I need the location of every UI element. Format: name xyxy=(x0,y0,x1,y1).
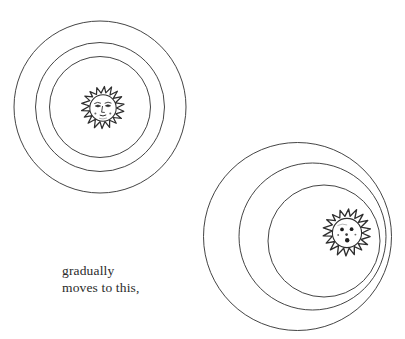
caption-line-1: gradually xyxy=(62,263,139,280)
sun-face-disc xyxy=(90,95,116,121)
sun-nose xyxy=(345,233,348,236)
sun-right-eye xyxy=(105,105,110,107)
sun-right-cheek xyxy=(354,234,356,236)
sun-left-cheek xyxy=(337,234,339,236)
caption: gradually moves to this, xyxy=(62,263,139,296)
caption-line-2: moves to this, xyxy=(62,280,139,297)
sun-right-eye xyxy=(350,227,354,231)
sun-right-cheek xyxy=(109,112,111,114)
sun-left-cheek xyxy=(94,113,96,115)
sun-face-disc xyxy=(332,218,361,247)
sun-mouth xyxy=(345,238,349,242)
page-background xyxy=(0,0,405,339)
sun-left-eye xyxy=(340,228,344,232)
sun-left-eye xyxy=(95,105,100,107)
diagram-canvas xyxy=(0,0,405,339)
